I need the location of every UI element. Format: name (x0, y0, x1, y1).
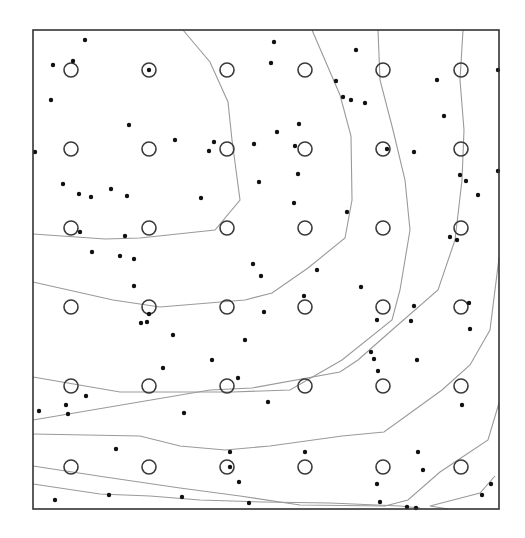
grid-site-marker (220, 142, 234, 156)
contour-line (33, 258, 499, 450)
sample-point (107, 493, 111, 497)
sample-point (236, 376, 240, 380)
sample-point (123, 234, 127, 238)
sample-point (435, 78, 439, 82)
grid-site-marker (298, 300, 312, 314)
grid-site-marker (376, 379, 390, 393)
sample-point (464, 179, 468, 183)
sample-point (118, 254, 122, 258)
sample-point (64, 403, 68, 407)
sample-point-dots (33, 38, 500, 510)
sample-point (297, 122, 301, 126)
contour-line (430, 476, 495, 509)
sample-point (257, 180, 261, 184)
sample-point (363, 101, 367, 105)
sample-point (66, 412, 70, 416)
sample-point (415, 358, 419, 362)
contour-line (33, 30, 352, 307)
sample-point (228, 450, 232, 454)
sample-point (341, 95, 345, 99)
sample-point (349, 98, 353, 102)
sample-point (262, 310, 266, 314)
sample-point (171, 333, 175, 337)
grid-site-marker (376, 63, 390, 77)
grid-site-marker (64, 300, 78, 314)
grid-site-marker (220, 379, 234, 393)
sample-point (51, 63, 55, 67)
sample-point (302, 294, 306, 298)
grid-site-marker (376, 300, 390, 314)
sample-point (127, 123, 131, 127)
sample-point (83, 38, 87, 42)
grid-site-marker (454, 300, 468, 314)
contour-line (33, 30, 240, 239)
sample-point (269, 61, 273, 65)
grid-site-marker (142, 221, 156, 235)
grid-site-circles (64, 63, 468, 474)
grid-site-marker (454, 460, 468, 474)
sample-point (61, 182, 65, 186)
sample-point (228, 465, 232, 469)
sample-point (243, 338, 247, 342)
sample-point (147, 68, 151, 72)
grid-site-marker (64, 221, 78, 235)
sample-point (173, 138, 177, 142)
sample-point (416, 450, 420, 454)
sample-point (49, 98, 53, 102)
grid-site-marker (220, 63, 234, 77)
contour-line (33, 30, 410, 392)
sample-point (78, 230, 82, 234)
sample-point (468, 327, 472, 331)
sample-point (455, 238, 459, 242)
sample-point (109, 187, 113, 191)
sample-point (147, 312, 151, 316)
sample-point (139, 321, 143, 325)
grid-site-marker (142, 379, 156, 393)
sample-point (378, 500, 382, 504)
grid-site-marker (142, 142, 156, 156)
sample-point (458, 173, 462, 177)
sample-point (448, 235, 452, 239)
sample-point (359, 285, 363, 289)
grid-site-marker (376, 221, 390, 235)
sample-point (334, 79, 338, 83)
sample-point (266, 400, 270, 404)
sample-point (180, 495, 184, 499)
grid-site-marker (220, 221, 234, 235)
grid-site-marker (454, 142, 468, 156)
sample-point (114, 447, 118, 451)
sample-point (460, 403, 464, 407)
grid-site-marker (298, 142, 312, 156)
sample-point (275, 130, 279, 134)
sample-point (207, 149, 211, 153)
sample-point (375, 482, 379, 486)
sample-point (252, 142, 256, 146)
grid-site-marker (298, 63, 312, 77)
sample-point (132, 284, 136, 288)
sample-point (489, 482, 493, 486)
contour-line (33, 30, 464, 420)
sample-point (412, 150, 416, 154)
grid-site-marker (142, 460, 156, 474)
grid-site-marker (64, 379, 78, 393)
sample-point (212, 140, 216, 144)
contour-lines (33, 30, 499, 509)
spatial-plot (0, 0, 525, 538)
sample-point (315, 268, 319, 272)
grid-site-marker (298, 460, 312, 474)
sample-point (409, 319, 413, 323)
grid-site-marker (64, 142, 78, 156)
sample-point (412, 304, 416, 308)
sample-point (293, 144, 297, 148)
sample-point (369, 350, 373, 354)
grid-site-marker (376, 460, 390, 474)
sample-point (210, 358, 214, 362)
plot-frame (33, 30, 499, 509)
sample-point (303, 450, 307, 454)
sample-point (385, 147, 389, 151)
sample-point (376, 369, 380, 373)
sample-point (354, 48, 358, 52)
sample-point (476, 193, 480, 197)
sample-point (145, 320, 149, 324)
sample-point (89, 195, 93, 199)
